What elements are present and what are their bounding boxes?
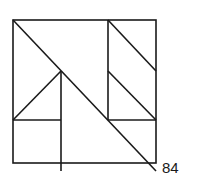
- figure-number-label: 84: [162, 160, 179, 175]
- middle-right-diagonal-line: [108, 71, 156, 120]
- upper-right-diagonal-line: [108, 20, 156, 71]
- main-diagonal-line: [13, 20, 156, 171]
- left-triangle-hypotenuse-line: [13, 71, 61, 120]
- outer-square: [13, 20, 156, 163]
- division-lines: [13, 20, 156, 171]
